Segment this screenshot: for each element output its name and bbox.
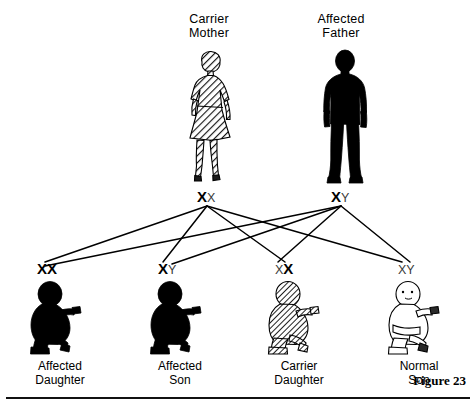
line-mother-to-normal-son xyxy=(207,206,402,262)
allele-affected-daughter-1: X xyxy=(37,260,47,277)
genotype-normal-son: XY xyxy=(398,263,415,277)
person-figure-carrier-daughter xyxy=(266,281,332,355)
genotype-carrier-daughter: XX xyxy=(275,262,293,277)
genetics-inheritance-figure: Carrier Mother Affected Father xyxy=(0,0,474,405)
bottom-divider-rule xyxy=(6,397,470,399)
allele-normal-son-2: Y xyxy=(406,263,414,277)
allele-affected-son-2: Y xyxy=(168,263,176,277)
line-father-to-normal-son xyxy=(341,206,410,262)
child-caption-affected-son: Affected Son xyxy=(125,360,235,387)
person-figure-affected-son xyxy=(148,281,214,355)
line-mother-to-affected-daughter xyxy=(45,206,207,262)
line-father-to-carrier-daughter xyxy=(278,206,341,262)
allele-affected-son-1: X xyxy=(158,260,168,277)
figure-number-label: Figure 23 xyxy=(413,373,466,389)
person-figure-affected-daughter xyxy=(28,281,94,355)
genotype-affected-daughter: XX xyxy=(37,262,57,277)
child-caption-affected-daughter: Affected Daughter xyxy=(5,360,115,387)
allele-affected-daughter-2: X xyxy=(47,260,57,277)
child-caption-carrier-daughter: Carrier Daughter xyxy=(244,360,354,387)
person-figure-normal-son xyxy=(386,281,452,355)
genotype-affected-son: XY xyxy=(158,262,176,277)
line-mother-to-carrier-daughter xyxy=(207,206,285,262)
allele-carrier-daughter-2: X xyxy=(283,260,293,277)
